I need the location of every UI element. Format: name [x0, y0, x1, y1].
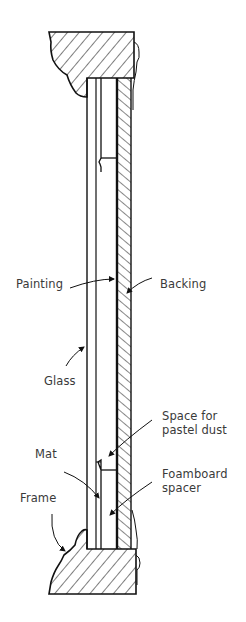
- label-glass: Glass: [44, 375, 76, 389]
- label-backing: Backing: [160, 278, 206, 292]
- mat: [96, 78, 117, 549]
- backing-board: [117, 78, 131, 549]
- framing-cross-section-diagram: [0, 0, 246, 622]
- label-space-for-pastel-dust: Space for pastel dust: [162, 410, 227, 437]
- label-frame: Frame: [20, 492, 56, 506]
- painting-arrow: [70, 279, 114, 288]
- frame-arrow: [52, 514, 65, 551]
- label-foamboard-spacer: Foamboard spacer: [162, 468, 228, 495]
- mat-arrow: [64, 472, 99, 498]
- label-foamboard-line1: Foamboard: [162, 468, 228, 482]
- label-space-line2: pastel dust: [162, 424, 227, 438]
- label-mat: Mat: [35, 448, 57, 462]
- label-painting: Painting: [16, 278, 63, 292]
- leader-arrows: [52, 278, 152, 551]
- glass-pane: [87, 78, 96, 549]
- glass-arrow: [66, 347, 84, 366]
- label-space-line1: Space for: [162, 410, 227, 424]
- label-foamboard-line2: spacer: [162, 482, 228, 496]
